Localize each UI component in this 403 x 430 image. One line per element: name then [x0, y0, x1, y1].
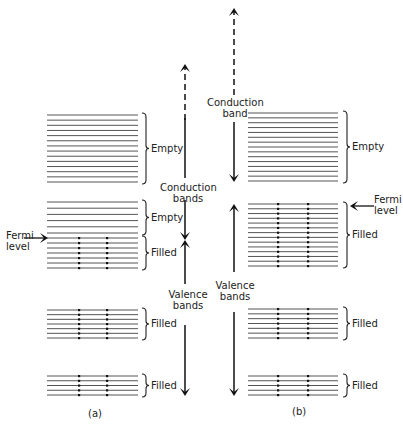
band-state-label: Empty [352, 141, 384, 152]
curly-brace-icon [142, 374, 149, 397]
electron-dot [307, 227, 309, 229]
electron-dot [307, 236, 309, 238]
curly-brace-icon [343, 307, 350, 340]
band-valence-band-2 [47, 308, 149, 340]
electron-dot [106, 375, 108, 377]
electron-dot [307, 385, 309, 387]
electron-dot [307, 313, 309, 315]
electron-dot [277, 375, 279, 377]
electron-dot [307, 375, 309, 377]
band-state-label: Filled [151, 380, 177, 391]
electron-dot [78, 328, 80, 330]
electron-dot [106, 247, 108, 249]
curly-brace-icon [343, 374, 350, 397]
electron-dot [277, 385, 279, 387]
electron-dot [277, 227, 279, 229]
electron-dot [78, 337, 80, 339]
electron-dot [307, 332, 309, 334]
electron-dot [277, 394, 279, 396]
electron-dot [307, 327, 309, 329]
electron-dot [277, 265, 279, 267]
panel-a-bands [47, 113, 149, 397]
band-state-label: Filled [352, 229, 378, 240]
electron-dot [307, 308, 309, 310]
electron-dot [78, 394, 80, 396]
electron-dot [307, 260, 309, 262]
electron-dot [307, 217, 309, 219]
electron-dot [106, 318, 108, 320]
electron-dot [307, 380, 309, 382]
fermi-level-label-b: Fermi level [374, 194, 402, 216]
electron-dot [277, 208, 279, 210]
electron-dot [78, 309, 80, 311]
electron-dot [307, 232, 309, 234]
electron-dot [277, 323, 279, 325]
electron-dot [78, 262, 80, 264]
electron-dot [307, 246, 309, 248]
electron-dot [307, 222, 309, 224]
caption-b: (b) [292, 406, 306, 417]
electron-dot [277, 318, 279, 320]
fermi-level-label-a: Fermi level [6, 230, 34, 252]
curly-brace-icon [142, 113, 149, 184]
band-partial-band-empty-part [47, 200, 149, 235]
band-state-label: Filled [151, 318, 177, 329]
electron-dot [277, 332, 279, 334]
panel-b-bands [248, 111, 350, 397]
electron-dot [106, 332, 108, 334]
band-valence-band-3 [248, 374, 350, 397]
electron-dot [277, 380, 279, 382]
band-valence-band-2 [248, 307, 350, 340]
electron-dot [78, 237, 80, 239]
electron-dot [277, 313, 279, 315]
band-valence-band-1 [248, 202, 350, 268]
energy-band-diagram [0, 0, 403, 430]
electron-dot [106, 314, 108, 316]
electron-dot [106, 394, 108, 396]
electron-dot [106, 389, 108, 391]
band-conduction-band [248, 111, 350, 183]
electron-dot [78, 252, 80, 254]
electron-dot [277, 232, 279, 234]
electron-dot [78, 332, 80, 334]
electron-dot [307, 318, 309, 320]
curly-brace-icon [142, 200, 149, 235]
electron-dot [277, 213, 279, 215]
electron-dot [277, 337, 279, 339]
electron-dot [307, 337, 309, 339]
electron-dot [78, 318, 80, 320]
electron-dot [78, 385, 80, 387]
electron-dot [106, 337, 108, 339]
curly-brace-icon [142, 236, 149, 270]
electron-dot [307, 323, 309, 325]
electron-dot [78, 323, 80, 325]
electron-dot [307, 394, 309, 396]
electron-dot [277, 255, 279, 257]
electron-dot [106, 380, 108, 382]
electron-dot [277, 236, 279, 238]
electron-dot [78, 267, 80, 269]
valence-bands-label-b: Valence bands [210, 280, 260, 302]
band-state-label: Empty [151, 143, 183, 154]
electron-dot [106, 267, 108, 269]
band-valence-band-3 [47, 374, 149, 397]
band-partial-band-filled-part [47, 236, 149, 270]
electron-dot [307, 208, 309, 210]
band-state-label: Filled [352, 380, 378, 391]
curly-brace-icon [343, 111, 350, 183]
electron-dot [277, 203, 279, 205]
band-state-label: Empty [151, 212, 183, 223]
electron-dot [106, 237, 108, 239]
conduction-band-label-b: Conduction band [207, 97, 263, 119]
electron-dot [78, 389, 80, 391]
electron-dot [106, 309, 108, 311]
electron-dot [277, 222, 279, 224]
electron-dot [277, 389, 279, 391]
valence-bands-label-a: Valence bands [163, 289, 213, 311]
electron-dot [78, 247, 80, 249]
electron-dot [277, 327, 279, 329]
electron-dot [307, 265, 309, 267]
electron-dot [106, 385, 108, 387]
electron-dot [78, 257, 80, 259]
electron-dot [277, 241, 279, 243]
